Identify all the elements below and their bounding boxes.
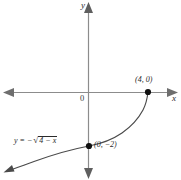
y-axis-label: y xyxy=(81,1,85,10)
equation-label: y = −√4 − x xyxy=(14,136,57,145)
x-axis-left-arrowhead xyxy=(3,88,14,97)
graph-canvas xyxy=(0,0,181,180)
x-axis-label: x xyxy=(172,94,176,103)
y-axis-top-arrowhead xyxy=(84,2,93,13)
function-curve xyxy=(9,92,148,171)
point-label-0-neg2: (0, −2) xyxy=(94,141,117,149)
equation-lhs: y = − xyxy=(14,136,32,145)
point-marker-4-0 xyxy=(145,89,151,95)
radical-group: √4 − x xyxy=(32,136,57,145)
curve-arrowhead xyxy=(4,165,15,173)
graph-figure: y x 0 (4, 0) (0, −2) y = −√4 − x xyxy=(0,0,181,180)
point-label-4-0: (4, 0) xyxy=(135,76,152,84)
origin-label: 0 xyxy=(80,94,84,103)
radicand: 4 − x xyxy=(38,136,57,145)
y-axis-bottom-arrowhead xyxy=(84,168,93,179)
point-marker-0-neg2 xyxy=(86,143,92,149)
